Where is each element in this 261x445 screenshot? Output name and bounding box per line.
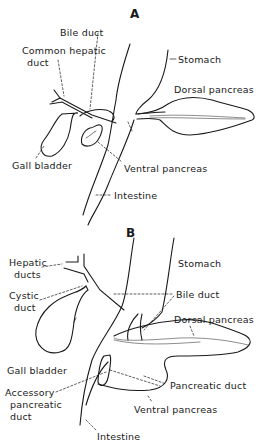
label-bile-duct-a: Bile duct — [60, 27, 103, 38]
label-hepatic-ducts-b: Hepatic — [9, 257, 47, 268]
label-intestine-a: Intestine — [114, 190, 157, 201]
label-dorsal-pancreas-b: Dorsal pancreas — [174, 314, 254, 325]
label-ventral-pancreas-a: Ventral pancreas — [124, 163, 207, 174]
label-cystic-duct-b: Cystic — [9, 290, 39, 301]
label-pancreatic-duct-b: Pancreatic duct — [170, 380, 246, 391]
label-common-hepatic-a: Common hepatic — [22, 45, 106, 56]
label-gall-bladder-a: Gall bladder — [12, 160, 72, 171]
label-dorsal-pancreas-a: Dorsal pancreas — [174, 84, 254, 95]
label-accessory-pancreatic-duct-b: Accessory — [5, 387, 55, 398]
label-hepatic-ducts-b-2: ducts — [14, 269, 41, 280]
label-bile-duct-b: Bile duct — [176, 289, 219, 300]
label-ventral-pancreas-b: Ventral pancreas — [134, 404, 217, 415]
label-gall-bladder-b: Gall bladder — [7, 365, 67, 376]
label-common-hepatic-duct-a: duct — [27, 57, 49, 68]
panel-a-letter: A — [130, 7, 139, 21]
label-accessory-pancreatic-duct-b-2: pancreatic — [10, 399, 62, 410]
label-stomach-b: Stomach — [178, 258, 221, 269]
label-accessory-pancreatic-duct-b-3: duct — [10, 411, 32, 422]
panel-b-letter: B — [126, 226, 135, 240]
label-stomach-a: Stomach — [178, 54, 221, 65]
label-intestine-b: Intestine — [97, 431, 140, 442]
label-cystic-duct-b-2: duct — [14, 302, 36, 313]
